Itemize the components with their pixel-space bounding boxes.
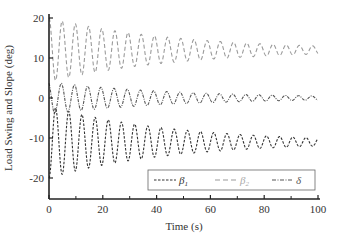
x-tick-label: 20	[97, 203, 109, 215]
y-tick-label: -20	[29, 172, 44, 184]
x-axis-title: Time (s)	[165, 220, 203, 233]
x-tick-label: 80	[259, 203, 271, 215]
y-axis-title: Load Swing and Slope (deg)	[2, 45, 15, 171]
x-tick-label: 40	[151, 203, 163, 215]
y-tick-label: -10	[29, 132, 44, 144]
x-tick-label: 0	[46, 203, 52, 215]
series-line-beta2	[49, 18, 318, 80]
series-line-beta1	[49, 108, 318, 178]
y-tick-label: 10	[33, 52, 45, 64]
x-tick-label: 60	[205, 203, 217, 215]
x-tick-label: 100	[310, 203, 327, 215]
legend: β1 β2 δ	[148, 170, 315, 190]
line-chart: -20-1001020 020406080100 Time (s) Load S…	[0, 0, 344, 234]
plot-series	[49, 18, 318, 178]
svg-text:δ: δ	[296, 174, 302, 186]
y-tick-label: 0	[39, 92, 45, 104]
x-axis-ticks: 020406080100	[46, 195, 327, 215]
y-tick-label: 20	[33, 12, 45, 24]
series-line-delta	[49, 83, 318, 113]
